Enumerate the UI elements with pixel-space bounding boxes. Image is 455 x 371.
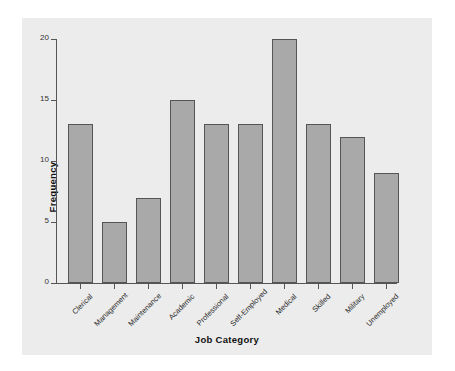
x-tick-label-professional: Professional [194,292,230,328]
bar-medical [272,39,297,283]
bar-clerical [68,124,93,283]
x-tick-mark [114,284,115,289]
x-tick-label-clerical: Clerical [58,292,94,328]
x-tick-mark [386,284,387,289]
x-tick-mark [182,284,183,289]
x-tick-mark [80,284,81,289]
bar-academic [170,100,195,283]
x-tick-label-academic: Academic [160,292,196,328]
x-tick-label-medical: Medical [262,292,298,328]
x-tick-label-self-employed: Self-Employed [228,292,264,328]
x-axis-line [56,283,397,284]
x-tick-label-skilled: Skilled [296,292,332,328]
x-tick-label-military: Military [330,292,366,328]
y-tick-mark [51,39,56,40]
bar-self-employed [238,124,263,283]
y-tick-label: 0 [45,277,49,286]
x-tick-mark [318,284,319,289]
y-tick-label: 15 [40,94,49,103]
plot-area: 0 5 10 15 20 [56,39,396,283]
y-tick-label: 5 [45,216,49,225]
bar-professional [204,124,229,283]
x-tick-mark [284,284,285,289]
x-tick-label-management: Management [92,292,128,328]
y-tick-label: 20 [40,33,49,42]
y-tick-mark [51,100,56,101]
chart-panel: Frequency 0 5 10 15 20 [22,18,432,355]
y-axis-line [56,39,57,284]
bar-unemployed [374,173,399,283]
x-axis-title: Job Category [22,334,432,345]
bar-maintenance [136,198,161,283]
x-tick-mark [352,284,353,289]
bar-military [340,137,365,283]
x-tick-mark [216,284,217,289]
y-tick-mark [51,222,56,223]
bar-management [102,222,127,283]
y-tick-mark [51,161,56,162]
bar-skilled [306,124,331,283]
y-tick-mark [51,283,56,284]
x-tick-mark [148,284,149,289]
y-tick-label: 10 [40,155,49,164]
x-tick-label-maintenance: Maintenance [126,292,162,328]
x-tick-mark [250,284,251,289]
x-tick-label-unemployed: Unemployed [364,292,400,328]
